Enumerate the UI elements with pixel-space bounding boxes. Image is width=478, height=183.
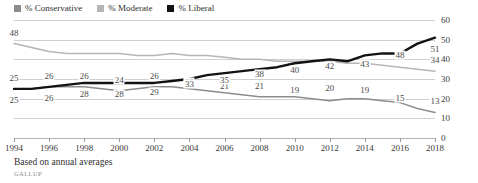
point-label: 38 (254, 70, 265, 79)
point-label: 26 (149, 71, 160, 80)
legend-swatch-moderate (97, 5, 104, 12)
point-label: 48 (394, 50, 405, 59)
footnote: Based on annual averages (14, 157, 112, 168)
point-label: 28 (79, 89, 90, 98)
point-label: 42 (324, 62, 335, 71)
x-tick-2000 (119, 138, 120, 142)
point-label: 43 (359, 60, 370, 69)
x-tick-2012 (330, 138, 331, 142)
x-tick-1998 (84, 138, 85, 142)
point-label: 28 (114, 89, 125, 98)
y-tick-label-10: 10 (441, 114, 450, 123)
chart-figure: % Conservative % Moderate % Liberal 2526… (0, 0, 478, 183)
point-label: 24 (114, 75, 125, 84)
point-label: 20 (324, 83, 335, 92)
x-tick-label-1996: 1996 (40, 144, 58, 153)
point-label: 13 (430, 97, 441, 106)
x-tick-2002 (154, 138, 155, 142)
plot-area: 2526262426232121192019151348342526282829… (14, 20, 435, 138)
legend-label-liberal: % Liberal (178, 4, 214, 13)
y-tick-label-0: 0 (441, 134, 446, 143)
x-tick-label-2012: 2012 (321, 144, 339, 153)
point-label: 19 (359, 85, 370, 94)
point-label: 51 (430, 44, 441, 53)
point-label: 25 (9, 95, 20, 104)
y-tick-label-30: 30 (441, 75, 450, 84)
point-label: 19 (289, 85, 300, 94)
x-tick-label-2004: 2004 (180, 144, 198, 153)
x-tick-2004 (189, 138, 190, 142)
x-tick-2018 (435, 138, 436, 142)
point-label: 21 (254, 81, 265, 90)
x-tick-label-2010: 2010 (286, 144, 304, 153)
x-tick-label-2008: 2008 (251, 144, 269, 153)
y-tick-label-40: 40 (441, 55, 450, 64)
point-label: 35 (219, 76, 230, 85)
point-label: 48 (9, 28, 20, 37)
y-tick-label-60: 60 (441, 16, 450, 25)
point-label: 33 (184, 80, 195, 89)
y-tick-label-50: 50 (441, 35, 450, 44)
point-label: 40 (289, 66, 300, 75)
x-tick-2014 (365, 138, 366, 142)
x-tick-label-1998: 1998 (75, 144, 93, 153)
point-label: 34 (430, 56, 441, 65)
point-label: 26 (79, 71, 90, 80)
x-tick-2010 (295, 138, 296, 142)
y-tick-label-20: 20 (441, 94, 450, 103)
point-label: 29 (149, 87, 160, 96)
legend-item-conservative: % Conservative (14, 4, 82, 13)
legend-item-liberal: % Liberal (167, 4, 214, 13)
source-attribution: GALLUP (14, 170, 42, 178)
x-tick-2006 (225, 138, 226, 142)
line-moderate (14, 44, 435, 72)
x-tick-2016 (400, 138, 401, 142)
point-label: 15 (394, 93, 405, 102)
x-tick-1996 (49, 138, 50, 142)
x-tick-label-2002: 2002 (145, 144, 163, 153)
point-label: 26 (44, 71, 55, 80)
chart-legend: % Conservative % Moderate % Liberal (14, 1, 214, 15)
legend-label-conservative: % Conservative (25, 4, 82, 13)
x-tick-label-2016: 2016 (391, 144, 409, 153)
x-tick-1994 (14, 138, 15, 142)
x-tick-label-2006: 2006 (216, 144, 234, 153)
x-tick-label-1994: 1994 (5, 144, 23, 153)
point-label: 25 (9, 73, 20, 82)
x-tick-2008 (260, 138, 261, 142)
line-conservative (14, 87, 435, 113)
point-label: 26 (44, 93, 55, 102)
x-tick-label-2000: 2000 (110, 144, 128, 153)
legend-item-moderate: % Moderate (97, 4, 152, 13)
legend-label-moderate: % Moderate (108, 4, 152, 13)
legend-swatch-liberal (167, 5, 174, 12)
x-tick-label-2014: 2014 (356, 144, 374, 153)
x-tick-label-2018: 2018 (426, 144, 444, 153)
legend-swatch-conservative (14, 5, 21, 12)
